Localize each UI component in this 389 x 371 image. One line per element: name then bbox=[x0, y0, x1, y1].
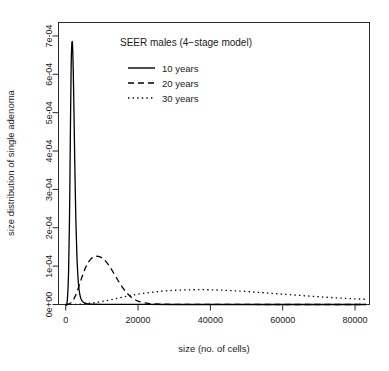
legend-label-20-years: 20 years bbox=[162, 78, 199, 89]
y-tick-label: 5e-04 bbox=[44, 101, 54, 124]
y-tick-label: 3e-04 bbox=[44, 178, 54, 201]
plot-title-annotation: SEER males (4−stage model) bbox=[120, 37, 252, 48]
legend-label-30-years: 30 years bbox=[162, 93, 199, 104]
y-tick-label: 7e-04 bbox=[44, 24, 54, 47]
x-tick-label: 60000 bbox=[270, 315, 295, 325]
legend-label-10-years: 10 years bbox=[162, 63, 199, 74]
y-tick-label: 1e-04 bbox=[44, 255, 54, 278]
y-tick-label: 0e+00 bbox=[44, 292, 54, 317]
chart-figure: 020000400006000080000 0e+001e-042e-043e-… bbox=[0, 0, 389, 371]
x-tick-label: 40000 bbox=[198, 315, 223, 325]
x-axis-title: size (no. of cells) bbox=[178, 343, 249, 354]
x-tick-label: 20000 bbox=[126, 315, 151, 325]
y-tick-label: 6e-04 bbox=[44, 63, 54, 86]
y-axis-title: size distribution of single adenoma bbox=[5, 89, 16, 235]
adenoma-size-distribution-chart: 020000400006000080000 0e+001e-042e-043e-… bbox=[0, 0, 389, 371]
y-tick-label: 4e-04 bbox=[44, 140, 54, 163]
x-tick-label: 0 bbox=[63, 315, 68, 325]
y-tick-label: 2e-04 bbox=[44, 216, 54, 239]
x-tick-label: 80000 bbox=[343, 315, 368, 325]
